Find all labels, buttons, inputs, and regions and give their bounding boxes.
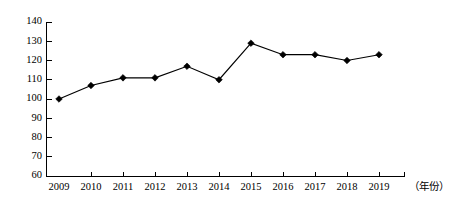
line-chart: 140 130 120 110 100 90 80 70 60 2009 [0,0,456,215]
y-tick-label: 70 [32,150,43,161]
x-tick-label: 2011 [113,181,134,192]
x-tick-label: 2019 [369,181,390,192]
x-tick-label: 2012 [145,181,166,192]
y-axis-tick-labels: 140 130 120 110 100 90 80 70 60 [26,15,42,180]
data-point-marker [344,57,351,64]
x-tick-label: 2014 [209,181,231,192]
x-tick-label: 2016 [273,181,294,192]
y-tick-label: 60 [32,169,43,180]
x-tick-label: 2015 [241,181,262,192]
y-tick-label: 100 [26,92,42,103]
x-tick-label: 2013 [177,181,198,192]
x-axis-tick-labels: 2009 2010 2011 2012 2013 2014 2015 2016 … [49,181,390,192]
y-axis-ticks [47,22,52,176]
data-point-marker [312,51,319,58]
x-axis-caption: （年份） [409,180,449,192]
data-point-marker [56,96,63,103]
y-tick-label: 120 [26,54,42,65]
x-axis-ticks [91,172,404,177]
chart-canvas: 140 130 120 110 100 90 80 70 60 2009 [0,0,456,215]
series-markers [56,40,383,102]
x-tick-label: 2018 [337,181,358,192]
y-tick-label: 140 [26,15,42,26]
data-point-marker [120,75,127,82]
y-tick-label: 90 [32,112,43,123]
x-tick-label: 2009 [49,181,70,192]
data-point-marker [88,82,95,89]
data-point-marker [184,63,191,70]
data-point-marker [280,51,287,58]
y-tick-label: 110 [27,73,42,84]
data-point-marker [376,51,383,58]
x-tick-label: 2017 [305,181,326,192]
series-line [59,43,379,99]
y-tick-label: 80 [32,131,43,142]
data-point-marker [152,75,159,82]
x-tick-label: 2010 [81,181,102,192]
y-tick-label: 130 [26,35,42,46]
